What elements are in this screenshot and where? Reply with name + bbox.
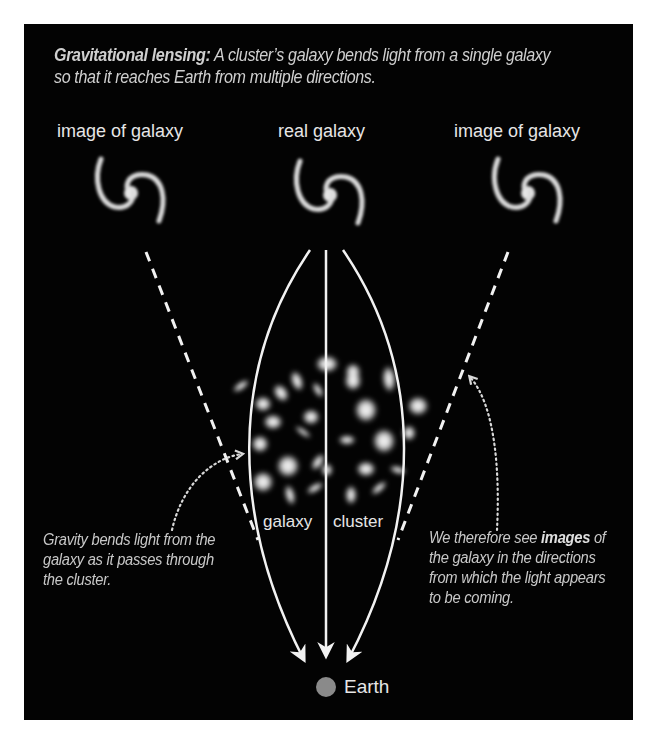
galaxy-icon-real [296,161,362,223]
galaxy-icon-left [97,159,163,221]
note-images-seen: We therefore see images of the galaxy in… [429,528,613,608]
light-path-right [343,250,404,660]
note-right-pre: We therefore see [429,529,541,546]
note-right-bold: images [541,529,590,546]
galaxy-cluster [231,355,429,507]
earth-label: Earth [344,676,389,698]
galaxy-icon-right [494,159,560,221]
earth-icon [316,677,336,697]
apparent-path-right [398,252,508,540]
cluster-label-cluster: cluster [333,512,383,532]
pointer-left [172,454,242,530]
lensing-diagram [0,0,652,731]
light-path-left [249,250,310,660]
cluster-label-galaxy: galaxy [263,512,312,532]
apparent-path-left [146,252,258,540]
note-gravity-bends: Gravity bends light from the galaxy as i… [43,530,232,590]
pointer-right [470,377,498,530]
